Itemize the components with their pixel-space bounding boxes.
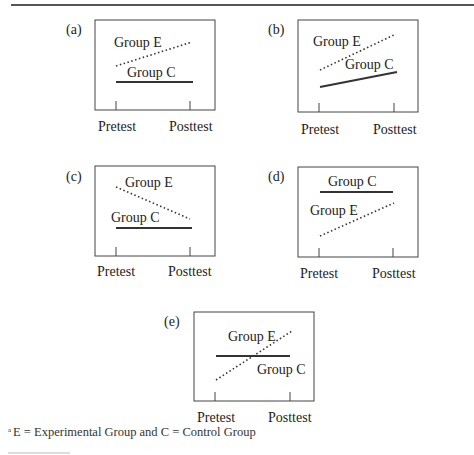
posttest-label: Posttest	[168, 264, 212, 279]
pretest-label: Pretest	[300, 266, 338, 281]
decorative-bar	[8, 452, 70, 454]
footnote-marker: a	[8, 426, 11, 434]
pretest-label: Pretest	[197, 410, 235, 425]
group-e-label: Group E	[125, 175, 173, 190]
interaction-patterns-figure: (a) Group E Group C Pretest Posttest (b)…	[0, 0, 474, 455]
footnote-text: E = Experimental Group and C = Control G…	[13, 425, 256, 439]
posttest-label: Posttest	[372, 266, 416, 281]
panel-c: (c) Group E Group C Pretest Posttest	[66, 166, 215, 279]
posttest-label: Posttest	[373, 122, 417, 137]
panel-label: (c)	[66, 169, 82, 185]
pretest-label: Pretest	[98, 119, 136, 134]
panel-label: (a)	[66, 22, 82, 38]
panel-b: (b) Group E Group C Pretest Posttest	[268, 20, 418, 137]
panel-d: (d) Group C Group E Pretest Posttest	[268, 167, 418, 281]
group-c-label: Group C	[127, 65, 176, 80]
group-e-label: Group E	[114, 35, 162, 50]
group-e-label: Group E	[228, 329, 276, 344]
posttest-label: Posttest	[169, 119, 213, 134]
group-c-line	[320, 72, 397, 87]
group-c-label: Group C	[257, 362, 306, 377]
group-c-label: Group C	[345, 57, 394, 72]
panel-e: (e) Group E Group C Pretest Posttest	[164, 312, 314, 425]
group-c-label: Group C	[328, 174, 377, 189]
panel-label: (b)	[268, 22, 285, 38]
panel-label: (e)	[164, 314, 180, 330]
group-e-label: Group E	[313, 34, 361, 49]
panel-a: (a) Group E Group C Pretest Posttest	[66, 20, 215, 134]
group-c-label: Group C	[111, 210, 160, 225]
pretest-label: Pretest	[301, 122, 339, 137]
group-e-label: Group E	[310, 203, 358, 218]
panel-label: (d)	[268, 169, 285, 185]
pretest-label: Pretest	[97, 264, 135, 279]
posttest-label: Posttest	[268, 410, 312, 425]
footnote: aE = Experimental Group and C = Control …	[8, 425, 256, 440]
